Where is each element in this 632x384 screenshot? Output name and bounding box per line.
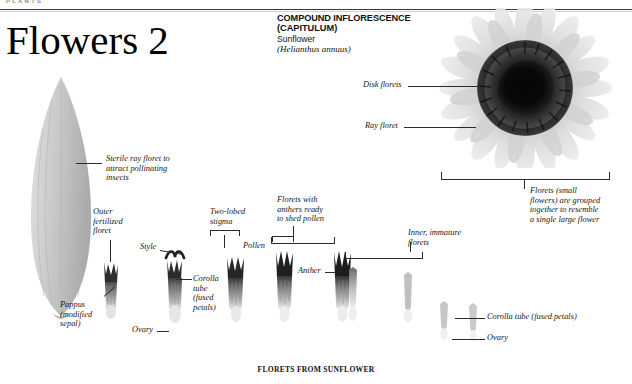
- floret-specimen-immature-a: [345, 266, 361, 324]
- label-anther: Anther: [298, 266, 321, 276]
- leader-ovary-left: [157, 331, 169, 332]
- section-kicker: PLANTS: [6, 0, 43, 4]
- bracket-sunflower-width: [441, 172, 610, 180]
- ray-floret-specimen-image: [22, 74, 100, 324]
- leader-ray-floret: [404, 127, 476, 128]
- label-inner-immature-florets: Inner, immature florets: [408, 228, 500, 247]
- leader-ovary-right: [452, 339, 485, 340]
- label-ray-floret: Ray floret: [365, 121, 398, 131]
- floret-specimen-immature-d: [466, 302, 480, 344]
- label-two-lobed-stigma: Two-lobed stigma: [210, 207, 272, 226]
- label-ovary-right: Ovary: [487, 333, 508, 343]
- leader-two-lobed-stigma: [224, 235, 225, 248]
- floret-specimen-stigma: [160, 246, 190, 326]
- label-sterile-ray-floret: Sterile ray floret to attract pollinatin…: [106, 154, 224, 183]
- leader-disk-florets: [408, 86, 478, 87]
- label-corolla-tube-left: Corolla tube (fused petals): [193, 274, 239, 312]
- page-title: Flowers 2: [6, 17, 169, 63]
- plant-anatomy-page: PLANTS Flowers 2 COMPOUND INFLORESCENCE …: [0, 0, 632, 384]
- label-corolla-tube-right: Corolla tube (fused petals): [487, 312, 627, 322]
- sunflower-head-image: [434, 8, 616, 168]
- label-head-caption: Florets (small flowers) are grouped toge…: [530, 186, 630, 224]
- label-pollen: Pollen: [243, 241, 265, 251]
- floret-specimen-immature-b: [400, 270, 416, 326]
- bracket-anthers-ready: [271, 237, 335, 244]
- leader-sterile-ray: [76, 163, 102, 164]
- leader-anthers-ready: [293, 226, 294, 237]
- label-style: Style: [140, 242, 156, 252]
- bracket-two-lobed-stigma: [210, 230, 240, 236]
- label-disk-florets: Disk florets: [363, 80, 402, 90]
- floret-specimen-immature-c: [437, 300, 451, 342]
- leader-corolla-tube-right: [455, 318, 485, 319]
- label-ovary-left: Ovary: [132, 325, 153, 335]
- label-anthers-ready: Florets with anthers ready to shed polle…: [277, 195, 353, 224]
- bottom-caption: FLORETS FROM SUNFLOWER: [0, 365, 632, 374]
- leader-inner-immature: [410, 242, 411, 252]
- label-outer-fertilized-floret: Outer fertilized floret: [93, 207, 153, 236]
- leader-outer-fertilized: [110, 240, 111, 262]
- label-pappus: Pappus (modified sepal): [60, 300, 114, 329]
- bracket-stem-sunflower: [524, 179, 525, 189]
- leader-anther: [325, 272, 337, 273]
- floret-specimen-anther-a: [272, 246, 298, 326]
- bracket-inner-immature: [345, 252, 423, 259]
- leader-corolla-tube-left: [176, 279, 192, 280]
